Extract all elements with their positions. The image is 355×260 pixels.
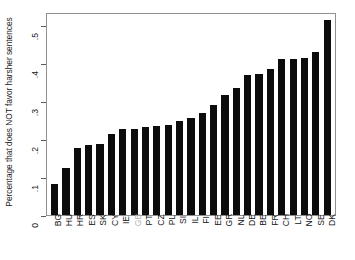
x-axis-tick-labels: BGHUHRESSKCYIEGBPTCZPLSIILFIEEGRNLDEBEFR…: [46, 217, 336, 257]
x-axis-tick-label: DK: [325, 217, 332, 243]
y-axis-title-container: Percentage that does NOT favor harsher s…: [0, 0, 18, 224]
x-axis-tick-label: CY: [107, 217, 114, 243]
bar: [153, 126, 160, 215]
bar: [221, 95, 228, 215]
y-axis-tick-mark: [41, 216, 46, 217]
y-axis-tick-label: .1: [18, 173, 38, 184]
y-axis-tick-mark: [41, 178, 46, 179]
y-axis-tick-labels: 0.1.2.3.4.5: [18, 13, 40, 216]
x-axis-tick-label: HR: [73, 217, 80, 243]
bar: [290, 59, 297, 215]
x-axis-tick-label: FR: [267, 217, 274, 243]
bar: [96, 144, 103, 215]
y-axis-tick-label: 0: [18, 211, 38, 222]
x-axis-tick-label: SI: [176, 217, 183, 243]
x-axis-tick-label: PT: [142, 217, 149, 243]
x-axis-tick-label: FI: [199, 217, 206, 243]
bar: [74, 148, 81, 215]
bar: [142, 127, 149, 215]
bar: [108, 134, 115, 215]
x-axis-tick-label: CH: [279, 217, 286, 243]
x-axis-tick-label: BE: [256, 217, 263, 243]
bar: [210, 105, 217, 215]
plot-area: [46, 13, 336, 216]
bar: [324, 20, 331, 215]
bar: [85, 145, 92, 215]
x-axis-tick-label: DE: [244, 217, 251, 243]
x-axis-tick-label: NL: [233, 217, 240, 243]
y-axis-tick-value: .2: [30, 147, 40, 154]
bar: [131, 129, 138, 215]
bar: [187, 118, 194, 215]
x-axis-tick-label: NO: [302, 217, 309, 243]
y-axis-tick-value: 0: [30, 223, 40, 228]
x-axis-tick-label: PL: [164, 217, 171, 243]
bar: [267, 69, 274, 215]
y-axis-tick-value: .3: [30, 109, 40, 116]
bar: [199, 113, 206, 215]
y-axis-tick-mark: [41, 64, 46, 65]
y-axis-tick-mark: [41, 26, 46, 27]
bar: [244, 75, 251, 215]
x-axis-tick-label: EE: [210, 217, 217, 243]
y-axis-tick-label: .4: [18, 59, 38, 70]
bar: [312, 52, 319, 215]
bar-chart-figure: Percentage that does NOT favor harsher s…: [0, 0, 355, 260]
x-axis-tick-label: SE: [313, 217, 320, 243]
x-axis-tick-label: GB: [130, 217, 137, 243]
x-axis-tick-label: IE: [119, 217, 126, 243]
y-axis-tick-mark: [41, 102, 46, 103]
y-axis-tick-value: .5: [30, 33, 40, 40]
y-axis-tick-value: .1: [30, 185, 40, 192]
x-axis-tick-label: HU: [61, 217, 68, 243]
bar: [165, 125, 172, 215]
y-axis-tick-label: .2: [18, 135, 38, 146]
x-axis-tick-label: CZ: [153, 217, 160, 243]
bar: [255, 74, 262, 215]
y-axis-title: Percentage that does NOT favor harsher s…: [4, 17, 14, 206]
y-axis-tick-label: .3: [18, 97, 38, 108]
bar: [62, 168, 69, 215]
bar: [176, 121, 183, 215]
bar: [233, 88, 240, 215]
x-axis-tick-label: LT: [290, 217, 297, 243]
y-axis-tick-label: .5: [18, 21, 38, 32]
x-axis-tick-label: BG: [50, 217, 57, 243]
x-axis-tick-label: SK: [96, 217, 103, 243]
bar: [119, 129, 126, 215]
bar: [301, 58, 308, 215]
x-axis-tick-label: ES: [84, 217, 91, 243]
y-axis-tick-value: .4: [30, 71, 40, 78]
x-axis-tick-label: GR: [222, 217, 229, 243]
bar-series: [47, 14, 335, 215]
bar: [51, 184, 58, 215]
y-axis-tick-mark: [41, 140, 46, 141]
x-axis-tick-label: IL: [187, 217, 194, 243]
x-axis-tick-value: DK: [328, 214, 337, 226]
bar: [278, 59, 285, 215]
